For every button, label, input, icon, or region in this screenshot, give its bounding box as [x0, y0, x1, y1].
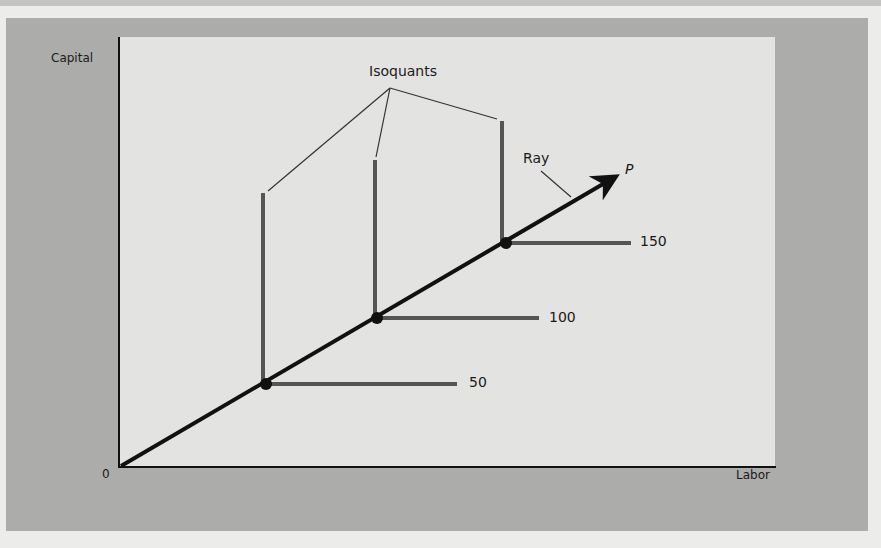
x-axis-label: Labor	[736, 468, 770, 482]
ray-label: Ray	[523, 150, 549, 166]
isoquant-150	[502, 121, 631, 243]
ray-0p	[121, 177, 615, 466]
point-100	[371, 312, 383, 324]
point-150	[500, 237, 512, 249]
isoquant-100-label: 100	[549, 309, 576, 325]
ray-end-label: P	[625, 161, 633, 177]
diagram-canvas	[0, 0, 881, 548]
isoquant-150-label: 150	[640, 233, 667, 249]
isoquants-label: Isoquants	[369, 63, 437, 79]
y-axis-label: Capital	[51, 51, 93, 65]
ray-leader-line	[541, 171, 571, 197]
origin-label: 0	[102, 467, 110, 481]
isoquant-50-label: 50	[469, 374, 487, 390]
isoquant-100	[375, 160, 539, 318]
point-50	[260, 378, 272, 390]
isoquants-leader-lines	[268, 88, 497, 191]
